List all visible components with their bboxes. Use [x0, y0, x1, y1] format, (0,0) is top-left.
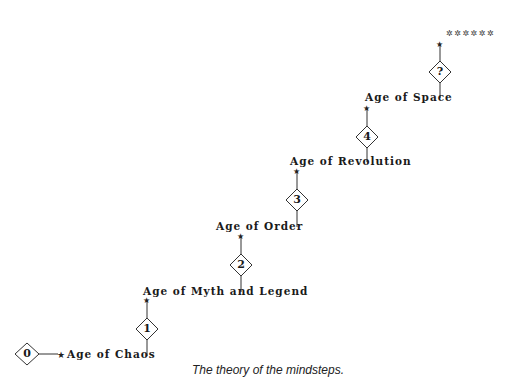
star-2-icon: ★ [237, 232, 244, 241]
step-marker-3: 3 [287, 194, 307, 205]
figure-caption: The theory of the mindsteps. [0, 363, 516, 377]
star-4-icon: ★ [363, 104, 370, 113]
step-label-unknown: ✲✲✲✲✲✲ [446, 30, 495, 38]
step-marker-1: 1 [137, 323, 157, 334]
step-label-4: Age of Space [365, 92, 453, 103]
step-marker-0: 0 [17, 348, 37, 359]
step-marker-2: 2 [231, 259, 251, 270]
diagram-lines: ★ ★ ★ ★ ★ ★ [0, 0, 516, 390]
step-label-3: Age of Revolution [290, 156, 412, 167]
step-label-1: Age of Myth and Legend [143, 286, 308, 297]
step-marker-unknown: ? [430, 66, 450, 77]
star-1-icon: ★ [143, 296, 150, 305]
step-label-0: Age of Chaos [67, 349, 156, 360]
star-3-icon: ★ [293, 167, 300, 176]
star-5-icon: ★ [436, 40, 443, 49]
step-marker-4: 4 [357, 131, 377, 142]
step-label-2: Age of Order [216, 221, 303, 232]
star-0-icon: ★ [57, 350, 65, 360]
mindsteps-diagram: ★ ★ ★ ★ ★ ★ 0 1 2 3 4 ? Age of Chaos Age… [0, 0, 516, 390]
arrowhead-stars: ★ ★ ★ ★ ★ ★ [57, 40, 443, 360]
